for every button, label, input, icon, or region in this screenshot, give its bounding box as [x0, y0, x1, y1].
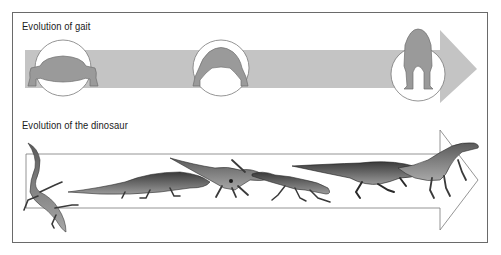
semi-erect-gait-icon	[193, 40, 249, 96]
erect-gait-icon	[391, 29, 445, 101]
diagram-graphics	[0, 0, 501, 255]
